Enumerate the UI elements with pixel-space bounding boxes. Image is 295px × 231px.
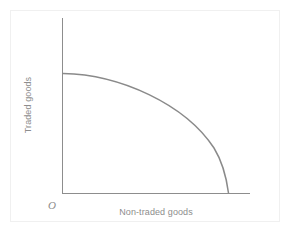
y-axis-label: Traded goods (23, 77, 33, 133)
x-axis-label: Non-traded goods (119, 207, 193, 217)
figure-page: Traded goods Non-traded goods O (0, 0, 295, 231)
ppf-diagram: Traded goods Non-traded goods O (0, 0, 295, 231)
origin-label: O (48, 199, 56, 211)
plot-canvas (0, 0, 295, 231)
ppf-curve (63, 74, 229, 194)
